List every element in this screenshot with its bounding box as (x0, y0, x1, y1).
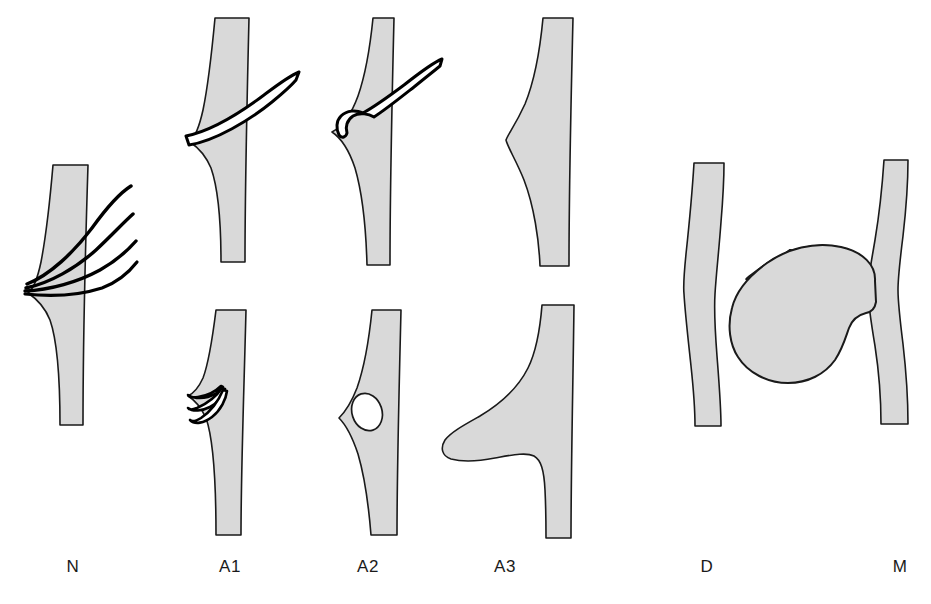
panel-label-A1: A1 (219, 557, 241, 576)
panel-label-D: D (701, 557, 714, 576)
panel-label-A3: A3 (494, 557, 516, 576)
figure-root: N A1 A2 A3 D M (0, 0, 931, 604)
morphology-diagram: N A1 A2 A3 D M (0, 0, 931, 604)
panel-label-N: N (67, 557, 80, 576)
panel-label-A2: A2 (357, 557, 379, 576)
panel-label-M: M (893, 557, 908, 576)
